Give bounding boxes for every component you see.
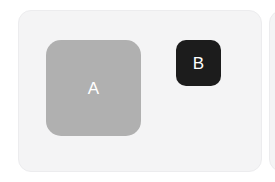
canvas: A B (0, 0, 275, 182)
secondary-card[interactable] (269, 10, 275, 172)
swatch-a[interactable]: A (46, 40, 141, 136)
swatch-b[interactable]: B (176, 40, 221, 86)
swatch-b-label: B (193, 55, 204, 72)
swatch-a-label: A (88, 80, 99, 97)
primary-card[interactable]: A B (18, 10, 262, 172)
